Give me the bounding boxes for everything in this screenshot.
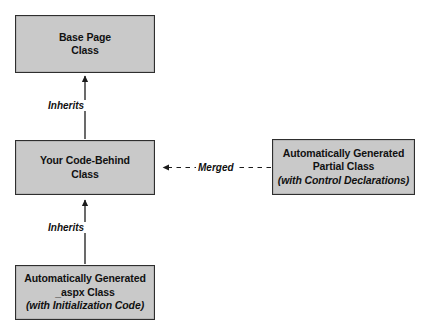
- node-partial-line2: Partial Class: [313, 160, 375, 174]
- node-code-behind-class: Your Code-Behind Class: [15, 140, 155, 195]
- node-base-page-line1: Base Page: [59, 31, 111, 45]
- node-base-page-class: Base Page Class: [15, 15, 155, 73]
- node-generated-aspx-class: Automatically Generated _aspx Class (wit…: [15, 265, 155, 320]
- edge-label-inherits-top: Inherits: [46, 100, 86, 111]
- node-aspx-line3: (with Initialization Code): [26, 299, 144, 313]
- node-code-behind-line2: Class: [71, 168, 99, 182]
- node-partial-line3: (with Control Declarations): [278, 174, 409, 188]
- node-partial-line1: Automatically Generated: [283, 147, 404, 161]
- node-aspx-line1: Automatically Generated: [24, 272, 145, 286]
- node-code-behind-line1: Your Code-Behind: [40, 154, 130, 168]
- edge-label-inherits-bottom: Inherits: [46, 222, 86, 233]
- edge-label-merged: Merged: [196, 162, 236, 173]
- class-relationship-diagram: Base Page Class Your Code-Behind Class A…: [0, 0, 432, 332]
- node-base-page-line2: Class: [71, 44, 99, 58]
- node-generated-partial-class: Automatically Generated Partial Class (w…: [272, 139, 415, 195]
- node-aspx-line2: _aspx Class: [55, 286, 115, 300]
